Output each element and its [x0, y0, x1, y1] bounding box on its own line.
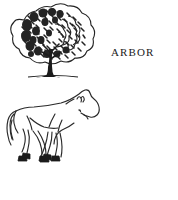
word-arbor: ARBOR	[111, 46, 154, 58]
concept-row-arbor: ARBOR	[0, 2, 178, 86]
sign-diagram: ARBOR	[0, 0, 178, 200]
horse-illustration	[0, 84, 110, 168]
tree-illustration	[0, 2, 110, 86]
concept-row-equos: EQUOS	[0, 84, 178, 168]
continuation-row: etc. etc.	[0, 168, 178, 200]
